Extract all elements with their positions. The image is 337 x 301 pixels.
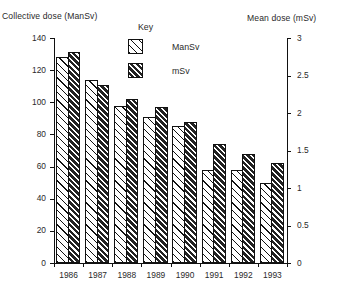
y-axis-right-tick-label: 3 <box>297 34 302 42</box>
y-axis-right-tick <box>287 38 291 39</box>
x-axis-label: 1987 <box>83 270 112 280</box>
bar-msv <box>184 122 197 263</box>
y-axis-left <box>54 38 55 263</box>
y-axis-left-tick <box>50 199 54 200</box>
y-axis-right-tick-label: 0 <box>297 259 302 267</box>
y-axis-left-tick-label: 20 <box>37 226 46 234</box>
bar-msv <box>68 52 81 263</box>
y-axis-left-tick <box>50 38 54 39</box>
left-axis-title: Collective dose (ManSv) <box>2 11 97 21</box>
y-axis-left-tick-label: 60 <box>37 162 46 170</box>
bar-msv <box>97 85 110 263</box>
y-axis-left-tick-label: 40 <box>37 194 46 202</box>
x-axis-tick <box>112 263 113 267</box>
y-axis-left-tick-label: 100 <box>32 98 46 106</box>
legend-title: Key <box>138 22 228 32</box>
y-axis-right-tick-label: 0.5 <box>297 221 309 229</box>
y-axis-left-tick <box>50 102 54 103</box>
y-axis-left-tick-label: 120 <box>32 66 46 74</box>
bar-chart: Collective dose (ManSv) Mean dose (mSv) … <box>0 0 337 301</box>
bar-msv <box>242 154 255 263</box>
x-axis-label: 1990 <box>171 270 200 280</box>
plot-area: 140120100806040200 32.521.510.50 1986198… <box>54 38 287 263</box>
x-axis-label: 1989 <box>141 270 170 280</box>
x-axis-label: 1993 <box>258 270 287 280</box>
y-axis-left-tick <box>50 167 54 168</box>
y-axis-right-tick <box>287 76 291 77</box>
y-axis-right-tick <box>287 151 291 152</box>
y-axis-right-tick-label: 1 <box>297 184 302 192</box>
y-axis-right-tick-label: 1.5 <box>297 146 309 154</box>
y-axis-right-tick <box>287 188 291 189</box>
x-axis-tick <box>258 263 259 267</box>
bar-msv <box>155 107 168 263</box>
y-axis-left-tick <box>50 231 54 232</box>
y-axis-left-tick-label: 0 <box>41 259 46 267</box>
x-axis-tick <box>141 263 142 267</box>
x-axis-label: 1988 <box>112 270 141 280</box>
bar-msv <box>271 163 284 263</box>
x-axis-tick <box>54 263 55 267</box>
x-axis-label: 1992 <box>229 270 258 280</box>
y-axis-right-tick-label: 2 <box>297 109 302 117</box>
y-axis-left-tick <box>50 70 54 71</box>
x-axis-tick <box>200 263 201 267</box>
y-axis-right-tick <box>287 113 291 114</box>
x-axis-label: 1986 <box>54 270 83 280</box>
y-axis-left-tick <box>50 134 54 135</box>
x-axis-tick <box>229 263 230 267</box>
bar-msv <box>126 99 139 263</box>
x-axis-label: 1991 <box>200 270 229 280</box>
bar-msv <box>213 144 226 263</box>
x-axis-tick <box>83 263 84 267</box>
y-axis-right-tick <box>287 226 291 227</box>
y-axis-right-tick-label: 2.5 <box>297 71 309 79</box>
y-axis-left-tick-label: 80 <box>37 130 46 138</box>
x-axis-tick <box>287 263 288 267</box>
y-axis-left-tick-label: 140 <box>32 34 46 42</box>
right-axis-title: Mean dose (mSv) <box>247 13 316 23</box>
x-axis-tick <box>171 263 172 267</box>
